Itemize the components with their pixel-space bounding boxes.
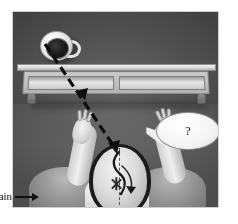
brain-label: rain — [0, 190, 39, 202]
right-arrow-icon — [15, 192, 39, 201]
brain-label-text: rain — [0, 190, 12, 202]
illustration-stage: ? rain — [0, 0, 238, 224]
illustration-frame: ? — [12, 11, 219, 208]
impact-trajectory — [13, 12, 219, 208]
